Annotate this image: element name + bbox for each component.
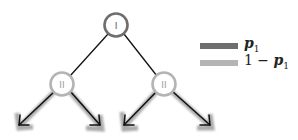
node-left: II [51,73,74,96]
edge-root-right [124,34,157,76]
arrow-right-right-icon [172,91,210,125]
legend: p1 1 − p1 [200,37,289,71]
legend-swatch-dark [200,43,238,49]
legend-swatch-light [200,60,238,66]
arrow-shadows [17,92,212,129]
node-root: I [105,14,128,37]
node-right-label: II [161,80,166,90]
node-right: II [153,73,176,96]
arrow-left-left-icon [19,91,55,125]
edge-root-left [70,34,108,76]
arrow-right-left-icon [124,91,157,125]
legend-item-one-minus-p1: 1 − p1 [200,54,289,71]
node-left-label: II [59,80,64,90]
legend-label-one-minus-p1: 1 − p1 [244,53,289,73]
arrow-left-right-icon [70,91,100,125]
node-root-label: I [115,21,118,31]
